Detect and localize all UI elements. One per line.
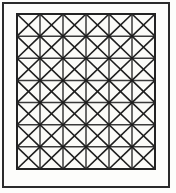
diagonal-grid-figure xyxy=(0,0,176,193)
figure-canvas xyxy=(0,0,176,193)
